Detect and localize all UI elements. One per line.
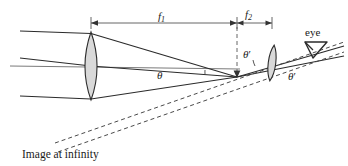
incoming-ray-middle [20, 58, 91, 66]
converging-ray-bundle [91, 34, 237, 100]
virtual-ray-upper [55, 42, 344, 143]
converging-ray-top [91, 34, 237, 78]
incoming-ray-bottom [20, 96, 91, 99]
eye-triangle-icon [305, 42, 327, 58]
label-theta-prime-outer-mark: ′ [293, 70, 295, 82]
label-f2-subscript: 2 [248, 13, 252, 22]
incoming-ray-top [20, 31, 91, 34]
incoming-ray-bundle [20, 31, 91, 99]
f2-right-arrowhead-icon [266, 20, 273, 25]
convex-lens-icon [85, 32, 97, 100]
converging-ray-bottom [91, 77, 237, 99]
label-eye: eye [305, 27, 320, 38]
f2-dimension-group [237, 17, 272, 29]
objective-lens [85, 32, 97, 100]
label-theta-prime-outer: θ′ [288, 71, 296, 82]
f2-left-arrowhead-icon [237, 20, 244, 25]
eye-symbol [305, 42, 327, 58]
theta-prime-angle-arc [253, 60, 255, 66]
optics-ray-diagram: f1 f2 θ θ′ θ′ eye Image at infinity [0, 0, 348, 166]
label-f1-subscript: 1 [161, 15, 165, 24]
label-f2: f2 [245, 9, 252, 22]
f1-left-arrowhead-icon [91, 20, 98, 25]
diagram-canvas [0, 0, 348, 166]
f1-right-arrowhead-icon [230, 20, 237, 25]
label-theta-glyph: θ [157, 69, 162, 81]
label-theta-prime-inner-mark: ′ [248, 48, 250, 60]
label-f1: f1 [158, 11, 165, 24]
label-theta: θ [157, 70, 162, 81]
figure-caption: Image at infinity [22, 149, 99, 161]
label-theta-prime-inner: θ′ [243, 49, 251, 60]
